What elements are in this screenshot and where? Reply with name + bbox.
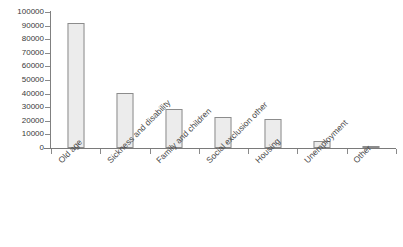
- bar-slot: [248, 12, 297, 148]
- x-axis-tick-mark: [396, 149, 397, 154]
- y-axis-tick-label: 100000: [17, 7, 44, 17]
- y-axis-tick-label: 30000: [22, 102, 44, 112]
- y-axis-tick-label: 50000: [22, 75, 44, 85]
- y-axis-tick-label: 20000: [22, 116, 44, 126]
- x-axis-tick-mark: [51, 149, 52, 154]
- y-axis-tick-labels: 1000009000080000700006000050000400003000…: [0, 0, 44, 160]
- y-axis-tick-label: 10000: [22, 129, 44, 139]
- y-axis-tick-label: 60000: [22, 61, 44, 71]
- x-axis-tick-mark: [297, 149, 298, 154]
- y-axis-tick-label: 90000: [22, 21, 44, 31]
- x-axis-tick-mark: [347, 149, 348, 154]
- x-axis-tick-mark: [150, 149, 151, 154]
- bar-slot: [347, 12, 396, 148]
- bar-chart: 1000009000080000700006000050000400003000…: [0, 0, 403, 247]
- x-axis-tick-mark: [199, 149, 200, 154]
- bar[interactable]: [67, 23, 84, 148]
- y-axis-tick-label: 40000: [22, 89, 44, 99]
- y-axis-tick-label: 80000: [22, 34, 44, 44]
- x-axis-tick-mark: [248, 149, 249, 154]
- bar-slot: [51, 12, 100, 148]
- x-axis-tick-mark: [100, 149, 101, 154]
- y-axis-tick-label: 70000: [22, 48, 44, 58]
